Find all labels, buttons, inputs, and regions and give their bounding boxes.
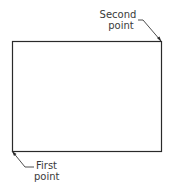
rectangle	[13, 42, 162, 152]
first-point-label-line2: point	[34, 171, 62, 182]
rectangle-diagram	[0, 0, 171, 185]
second-point-label-line1: Second	[96, 9, 140, 20]
second-point-label: Second point	[96, 9, 140, 31]
first-point-label: First point	[34, 160, 62, 182]
second-point-label-line2: point	[96, 20, 140, 31]
first-point-label-line1: First	[34, 160, 62, 171]
